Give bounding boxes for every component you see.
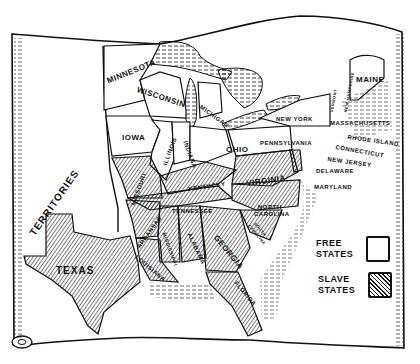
label-north-carolina-1: NORTH bbox=[258, 204, 282, 210]
legend-slave-label: SLAVE STATES bbox=[318, 274, 355, 296]
label-delaware: DELAWARE bbox=[316, 168, 354, 174]
label-maine: MAINE bbox=[356, 76, 384, 84]
label-maryland: MARYLAND bbox=[314, 184, 352, 190]
legend-slave-swatch bbox=[368, 272, 392, 298]
map-canvas: TERRITORIES MINNESOTA WISCONSIN MICHIGAN… bbox=[0, 0, 420, 364]
label-new-york: NEW YORK bbox=[276, 116, 313, 122]
label-massachusetts: MASSACHUSETTS bbox=[330, 120, 391, 126]
label-texas: TEXAS bbox=[56, 266, 94, 276]
label-tennessee: TENNESSEE bbox=[172, 208, 213, 214]
label-ohio: OHIO bbox=[226, 146, 248, 154]
legend-free-swatch bbox=[366, 236, 390, 262]
legend-free-label: FREE STATES bbox=[316, 238, 353, 260]
label-pennsylvania: PENNSYLVANIA bbox=[260, 140, 312, 146]
label-iowa: IOWA bbox=[122, 134, 145, 142]
label-north-carolina-2: CAROLINA bbox=[254, 211, 290, 217]
